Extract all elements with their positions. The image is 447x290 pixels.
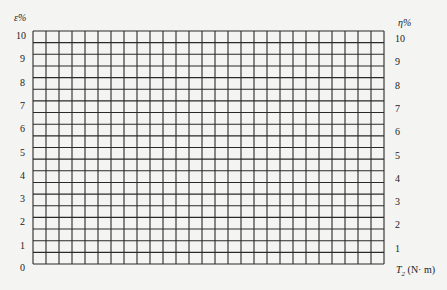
left-tick-label: 2 (20, 217, 25, 227)
grid (0, 0, 447, 290)
right-tick-label: 6 (395, 127, 400, 137)
left-axis-title: ε% (14, 12, 26, 23)
left-tick-label: 5 (20, 148, 25, 158)
left-tick-label: 6 (20, 124, 25, 134)
x-axis-unit: (N· m) (405, 264, 435, 275)
right-tick-label: 4 (395, 174, 400, 184)
right-tick-label: 1 (395, 244, 400, 254)
right-tick-label: 8 (395, 81, 400, 91)
left-tick-label: 4 (20, 171, 25, 181)
left-tick-label: 10 (16, 31, 26, 41)
right-tick-label: 2 (395, 220, 400, 230)
right-tick-label: 10 (395, 34, 405, 44)
chart-area: ε% η% T2 (N· m) 0 12345678910 1234567891… (0, 0, 447, 290)
left-tick-label: 1 (20, 241, 25, 251)
right-axis-title: η% (398, 17, 411, 28)
origin-label: 0 (20, 263, 25, 273)
right-tick-label: 5 (395, 151, 400, 161)
right-tick-label: 3 (395, 197, 400, 207)
left-tick-label: 3 (20, 194, 25, 204)
right-tick-label: 7 (395, 104, 400, 114)
x-axis-title: T2 (N· m) (396, 264, 435, 278)
left-tick-label: 7 (20, 101, 25, 111)
left-tick-label: 9 (20, 54, 25, 64)
left-tick-label: 8 (20, 78, 25, 88)
right-tick-label: 9 (395, 57, 400, 67)
